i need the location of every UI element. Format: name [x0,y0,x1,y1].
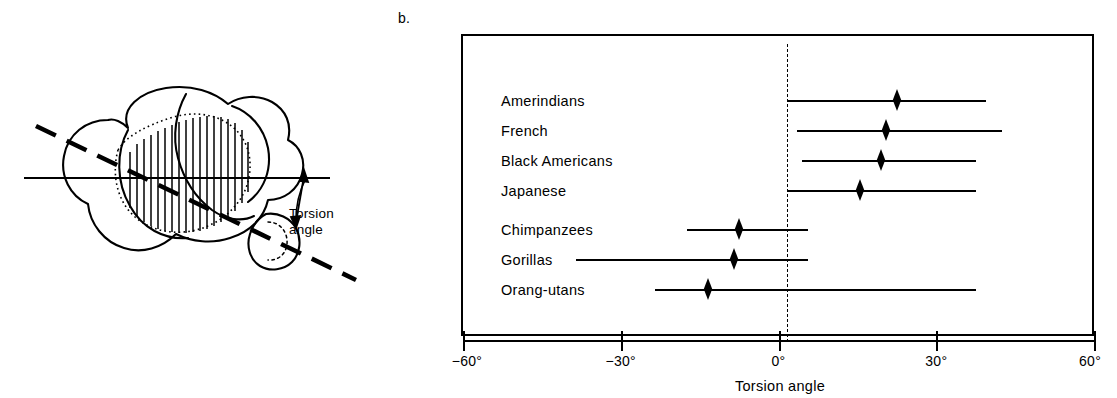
row-label-french: French [501,120,548,142]
mean-marker-diamond [731,218,747,240]
plot-frame: AmerindiansFrenchBlack AmericansJapanese… [461,34,1094,336]
chart-row: Chimpanzees [463,219,1092,241]
row-label-amerindians: Amerindians [501,90,585,112]
chart-row: Gorillas [463,249,1092,271]
distal-process-inner [268,222,287,260]
chart-row: Black Americans [463,150,1092,172]
mean-marker-diamond [852,179,868,201]
chart-row: French [463,120,1092,142]
mean-marker-diamond [889,89,905,111]
mean-marker-diamond [878,119,894,141]
row-label-orang-utans: Orang-utans [501,279,585,301]
x-tick [779,331,781,351]
x-tick [936,331,938,351]
x-tick [1094,331,1096,351]
range-bar [787,190,976,192]
chart-torsion-angle-ranges: AmerindiansFrenchBlack AmericansJapanese… [455,28,1105,373]
torsion-angle-caption: Torsion angle [289,206,334,238]
humerus-cross-section-drawing [0,0,390,398]
anatomy-illustration-panel: Torsion angle [0,0,390,398]
bone-outline-right-lobe [232,106,269,202]
x-tick-label: 0° [772,353,786,369]
x-tick [621,331,623,351]
row-label-japanese: Japanese [501,180,566,202]
chart-row: Orang-utans [463,279,1092,301]
mean-marker-diamond [873,149,889,171]
x-tick-label: 60° [1079,353,1101,369]
range-bar [576,259,807,261]
mean-marker-diamond [700,278,716,300]
row-label-gorillas: Gorillas [501,249,553,271]
x-tick-label: 30° [925,353,947,369]
x-tick-label: −60° [452,353,483,369]
hatching-lines [130,116,248,233]
x-tick [463,331,465,351]
torsion-angle-caption-line1: Torsion [289,206,334,222]
figure-torsion-angle: Torsion angle b. AmerindiansFrenchBlack … [0,0,1117,398]
panel-letter-b: b. [398,10,410,26]
torsion-angle-caption-line2: angle [289,222,334,238]
x-axis: −60°−30°0°30°60° Torsion angle [455,340,1105,398]
chart-row: Japanese [463,180,1092,202]
mean-marker-diamond [726,248,742,270]
row-label-chimpanzees: Chimpanzees [501,219,593,241]
range-bar [797,130,1002,132]
x-axis-title: Torsion angle [455,378,1105,394]
x-tick-label: −30° [605,353,636,369]
chart-row: Amerindians [463,90,1092,112]
range-bar [787,100,987,102]
row-label-black-americans: Black Americans [501,150,613,172]
